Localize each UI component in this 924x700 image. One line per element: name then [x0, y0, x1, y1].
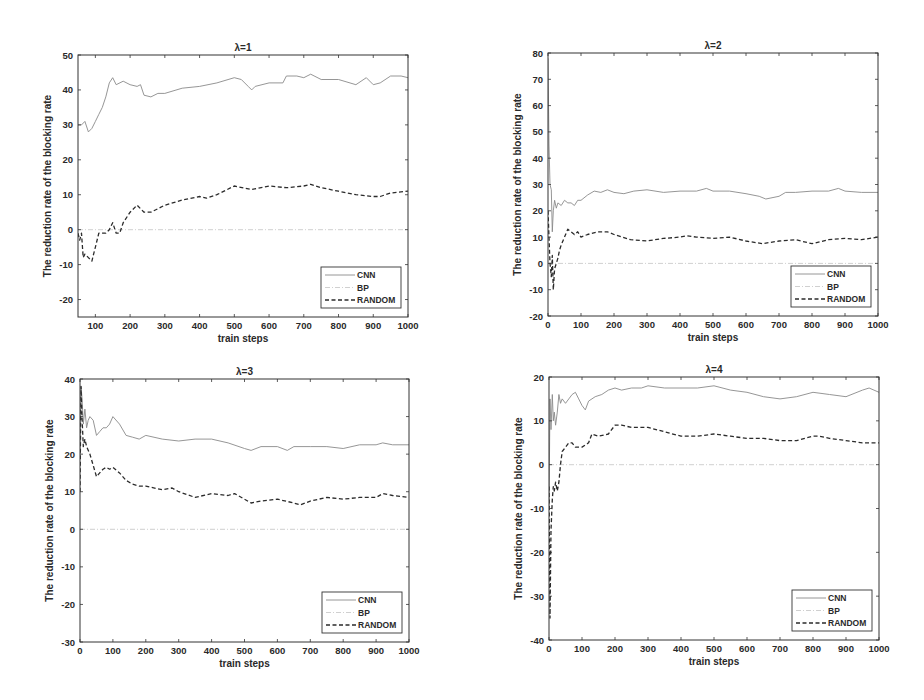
x-tick-label: 800 [331, 320, 347, 331]
x-tick-label: 400 [672, 319, 688, 330]
x-tick-label: 500 [226, 320, 242, 331]
legend-label-bp: BP [358, 608, 370, 618]
legend-label-cnn: CNN [358, 595, 376, 605]
x-tick-label: 500 [237, 645, 253, 656]
legend-label-bp: BP [827, 282, 839, 292]
subplot-lambda-4: 01002003004005006007008009001000-40-30-2… [513, 364, 890, 667]
legend-label-random: RANDOM [827, 294, 865, 304]
figure-canvas: 1002003004005006007008009001000-20-10010… [0, 0, 924, 700]
y-tick-label: 0 [538, 258, 543, 269]
x-tick-label: 900 [365, 320, 381, 331]
x-tick-label: 700 [296, 320, 312, 331]
y-tick-label: 80 [532, 48, 543, 59]
x-axis-label: train steps [219, 658, 270, 669]
y-tick-label: 40 [532, 153, 543, 164]
y-tick-label: 0 [539, 459, 544, 470]
x-tick-label: 1000 [867, 319, 888, 330]
x-tick-label: 1000 [868, 643, 889, 654]
x-tick-label: 800 [804, 319, 820, 330]
subplot-lambda-2: 01002003004005006007008009001000-20-1001… [512, 40, 889, 343]
x-axis-label: train steps [218, 333, 269, 344]
x-tick-label: 200 [138, 645, 154, 656]
x-tick-label: 100 [574, 643, 590, 654]
x-axis-label: train steps [688, 332, 739, 343]
y-tick-label: 10 [64, 486, 75, 497]
x-tick-label: 900 [837, 319, 853, 330]
x-tick-label: 100 [87, 320, 103, 331]
y-tick-label: 20 [64, 449, 75, 460]
y-tick-label: -10 [61, 561, 75, 572]
x-tick-label: 500 [705, 319, 721, 330]
y-axis-label: The reduction rate of the blocking rate [513, 417, 524, 600]
y-tick-label: -40 [530, 635, 544, 646]
y-tick-label: -10 [59, 259, 73, 270]
y-tick-label: 20 [532, 205, 543, 216]
legend: CNNBPRANDOM [321, 267, 401, 308]
x-tick-label: 0 [77, 645, 82, 656]
y-tick-label: -10 [530, 503, 544, 514]
legend-label-bp: BP [357, 283, 369, 293]
y-tick-label: 40 [64, 374, 75, 385]
y-axis-label: The reduction rate of the blocking rate [44, 419, 55, 602]
y-tick-label: 0 [68, 224, 73, 235]
x-tick-label: 100 [105, 645, 121, 656]
legend-label-random: RANDOM [357, 295, 395, 305]
y-tick-label: 10 [532, 232, 543, 243]
x-tick-label: 600 [261, 320, 277, 331]
y-tick-label: -20 [61, 599, 75, 610]
x-tick-label: 900 [838, 643, 854, 654]
y-tick-label: 20 [533, 372, 544, 383]
subplot-title: λ=3 [236, 366, 253, 377]
legend-label-cnn: CNN [357, 270, 375, 280]
subplot-lambda-1: 1002003004005006007008009001000-20-10010… [42, 42, 419, 344]
y-tick-label: -30 [61, 637, 75, 648]
x-tick-label: 500 [706, 643, 722, 654]
y-tick-label: 70 [532, 74, 543, 85]
x-tick-label: 1000 [398, 645, 419, 656]
y-tick-label: 40 [62, 84, 73, 95]
legend-label-cnn: CNN [827, 269, 845, 279]
y-tick-label: 60 [532, 100, 543, 111]
y-tick-label: -10 [529, 284, 543, 295]
y-axis-label: The reduction rate of the blocking rate [512, 93, 523, 276]
x-tick-label: 900 [368, 645, 384, 656]
x-axis-label: train steps [689, 656, 740, 667]
x-tick-label: 800 [335, 645, 351, 656]
x-tick-label: 300 [639, 319, 655, 330]
y-tick-label: -20 [529, 311, 543, 322]
y-tick-label: 50 [532, 126, 543, 137]
x-tick-label: 600 [269, 645, 285, 656]
subplot-lambda-3: 01002003004005006007008009001000-30-20-1… [44, 366, 420, 669]
subplot-title: λ=1 [235, 42, 252, 53]
subplot-title: λ=2 [705, 40, 722, 51]
y-tick-label: 30 [532, 179, 543, 190]
y-tick-label: 10 [533, 415, 544, 426]
y-tick-label: -20 [530, 547, 544, 558]
x-tick-label: 700 [771, 319, 787, 330]
y-axis-label: The reduction rate of the blocking rate [42, 94, 53, 277]
y-tick-label: -20 [59, 294, 73, 305]
x-tick-label: 700 [302, 645, 318, 656]
x-tick-label: 200 [122, 320, 138, 331]
x-tick-label: 800 [805, 643, 821, 654]
y-tick-label: 20 [62, 154, 73, 165]
x-tick-label: 100 [573, 319, 589, 330]
x-tick-label: 0 [545, 319, 550, 330]
legend: CNNBPRANDOM [791, 266, 871, 307]
x-tick-label: 200 [607, 643, 623, 654]
x-tick-label: 300 [157, 320, 173, 331]
y-tick-label: 10 [62, 189, 73, 200]
x-tick-label: 0 [546, 643, 551, 654]
legend: CNNBPRANDOM [322, 592, 402, 633]
y-tick-label: -30 [530, 591, 544, 602]
x-tick-label: 300 [171, 645, 187, 656]
legend-label-bp: BP [828, 606, 840, 616]
y-tick-label: 0 [70, 524, 75, 535]
y-tick-label: 50 [62, 50, 73, 61]
y-tick-label: 30 [64, 411, 75, 422]
x-tick-label: 600 [738, 319, 754, 330]
legend-label-cnn: CNN [828, 593, 846, 603]
subplot-title: λ=4 [706, 364, 723, 375]
x-tick-label: 1000 [397, 320, 418, 331]
legend: CNNBPRANDOM [792, 590, 872, 631]
